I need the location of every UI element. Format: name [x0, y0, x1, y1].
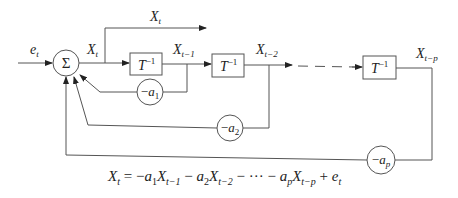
delay-block-p: T−1 — [363, 56, 396, 79]
gain-ap: −ap — [367, 146, 395, 174]
feedback-a1-tap — [163, 64, 187, 92]
label-x-t-sum: Xt — [86, 42, 99, 59]
feedback-ap-return — [66, 77, 367, 160]
dashed-ellipsis-line — [298, 66, 355, 67]
label-x-t-p: Xt−p — [415, 46, 438, 63]
sum-junction: Σ — [53, 50, 79, 76]
gain-a2: −a2 — [217, 115, 243, 141]
gain-a1: −a1 — [137, 79, 163, 105]
label-x-t-2: Xt−2 — [255, 42, 278, 59]
delay-block-1: T−1 — [130, 53, 162, 75]
sigma-symbol: Σ — [62, 55, 71, 71]
label-e-t: et — [30, 42, 39, 59]
feedback-a2-tap — [243, 65, 269, 128]
ar-equation: Xt = −a1Xt−1 − a2Xt−2 − ··· − apXt−p + e… — [108, 168, 368, 187]
delay-block-2: T−1 — [212, 54, 244, 77]
label-x-t-1: Xt−1 — [172, 42, 195, 59]
delayp-output-line — [395, 68, 432, 160]
label-x-t-output: Xt — [149, 9, 162, 26]
feedback-a1-return — [80, 75, 137, 92]
